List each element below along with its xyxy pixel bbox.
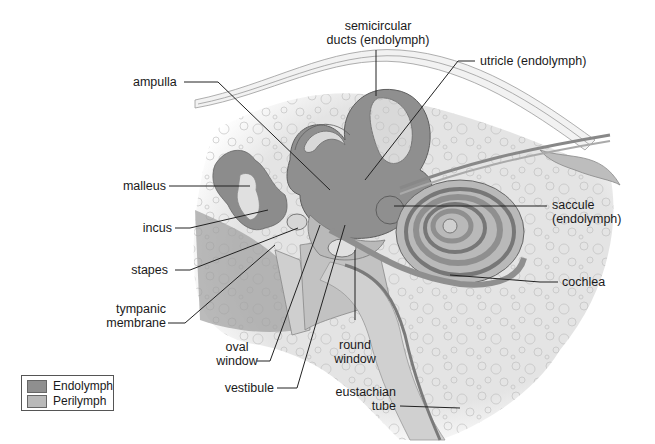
- label-cochlea: cochlea: [562, 275, 605, 289]
- label-eustachian-tube: eustachian tube: [320, 385, 396, 413]
- label-saccule: saccule (endolymph): [552, 198, 621, 226]
- label-vestibule: vestibule: [200, 381, 274, 395]
- label-semicircular-ducts: semicircular ducts (endolymph): [318, 19, 438, 47]
- legend: Endolymph Perilymph: [21, 375, 114, 411]
- label-ampulla: ampulla: [133, 75, 177, 89]
- label-tympanic-membrane: tympanic membrane: [80, 302, 166, 330]
- label-stapes: stapes: [108, 263, 168, 277]
- label-round-window: round window: [328, 338, 382, 366]
- endolymph-swatch: [27, 380, 47, 393]
- label-incus: incus: [112, 221, 172, 235]
- label-malleus: malleus: [106, 179, 166, 193]
- label-oval-window: oval window: [210, 340, 264, 368]
- label-utricle: utricle (endolymph): [480, 54, 586, 68]
- perilymph-swatch: [27, 395, 47, 408]
- legend-item-endolymph: Endolymph: [27, 379, 113, 393]
- legend-item-perilymph: Perilymph: [27, 394, 106, 408]
